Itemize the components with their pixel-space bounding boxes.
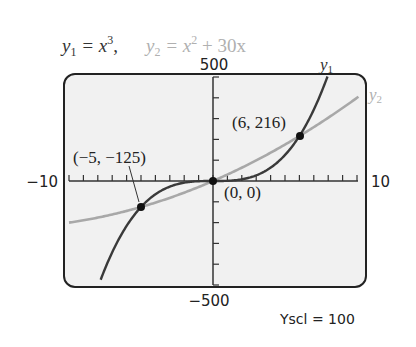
intersection-label-6: (6, 216) <box>232 113 286 132</box>
title-y1: y1 = x3, <box>60 33 118 59</box>
xmin-label: −10 <box>26 173 58 191</box>
title-y2: y2 = x2 + 30x <box>144 33 246 59</box>
intersection-label-origin: (0, 0) <box>224 183 261 202</box>
y2-curve-label: y2 <box>367 85 382 105</box>
xmax-label: 10 <box>371 173 390 191</box>
intersection-label-neg5: (−5, −125) <box>73 148 146 167</box>
y1-curve-label: y1 <box>318 55 333 75</box>
intersection-point-neg5 <box>137 203 145 211</box>
yscl-label: Yscl = 100 <box>279 311 355 327</box>
ymin-label: −500 <box>188 292 229 310</box>
chart-figure: y1 = x3, y2 = x2 + 30x 500 y1 y2 (−5, −1… <box>0 0 416 347</box>
ymax-label: 500 <box>200 56 229 74</box>
intersection-point-6 <box>296 132 304 140</box>
intersection-point-origin <box>209 177 217 185</box>
